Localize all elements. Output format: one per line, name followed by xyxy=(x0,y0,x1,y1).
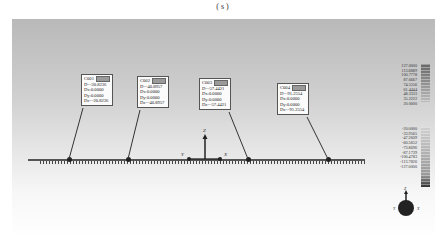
leader-lines xyxy=(0,0,445,237)
triad-label-z: Z xyxy=(404,186,406,191)
callout-dz: Dz=-40.8957 xyxy=(140,100,166,106)
callout-dz: Dz=-91.2554 xyxy=(280,107,306,113)
callout-c002[interactable]: C002 D=-40.8957 Dx:0.0000 Dy:0.0000 Dz=-… xyxy=(137,76,169,108)
callout-dz: Dz=-20.8236 xyxy=(84,98,110,104)
legend-value: 20.0000 xyxy=(393,102,417,107)
legend-lower-labels: -20.0000 -33.9565 -47.2609 -60.5652 -73.… xyxy=(393,127,417,169)
triad-label-y: Y xyxy=(393,206,395,211)
color-tag xyxy=(152,78,166,84)
legend-bar-upper xyxy=(421,64,430,102)
axis-label-x: X xyxy=(224,152,227,157)
axis-label-y: Y xyxy=(181,152,184,157)
orientation-triad-icon[interactable] xyxy=(392,188,422,220)
callout-dz: Dz=-57.4421 xyxy=(202,102,228,108)
color-tag xyxy=(96,76,110,82)
callout-id: C004 xyxy=(280,85,290,91)
legend-value: -127.0000 xyxy=(393,165,417,170)
triad-label-x: X xyxy=(417,206,419,211)
color-tag xyxy=(214,80,228,86)
callout-id: C001 xyxy=(84,76,94,82)
callout-id: C002 xyxy=(140,78,150,84)
callout-id: C003 xyxy=(202,80,212,86)
color-tag xyxy=(292,85,306,91)
callout-c004[interactable]: C004 D=-91.2554 Dx:0.0000 Dy:0.0000 Dz=-… xyxy=(277,83,309,115)
axis-label-z: Z xyxy=(203,128,206,133)
callout-c001[interactable]: C001 D=-20.8236 Dx:0.0000 Dy:0.0000 Dz=-… xyxy=(81,74,113,106)
legend-bar-lower xyxy=(421,127,430,187)
legend-upper-labels: 127.0000 113.8889 100.7778 87.6667 74.55… xyxy=(393,64,417,106)
callout-c003[interactable]: C003 D=-57.4421 Dx:0.0000 Dy:0.0000 Dz=-… xyxy=(199,78,231,110)
